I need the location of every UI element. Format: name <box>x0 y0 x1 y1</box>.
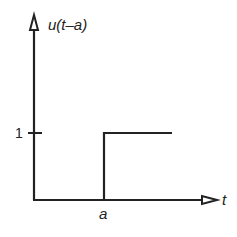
y-tick-label: 1 <box>15 125 23 141</box>
y-axis-label: u(t–a) <box>48 16 87 33</box>
y-axis-arrowhead-icon <box>30 15 38 30</box>
step-curve <box>104 133 172 200</box>
step-function-diagram: u(t–a) 1 a t <box>0 0 237 237</box>
x-axis-arrowhead-icon <box>202 196 217 204</box>
x-tick-label: a <box>99 205 107 222</box>
x-axis-label: t <box>222 191 227 208</box>
